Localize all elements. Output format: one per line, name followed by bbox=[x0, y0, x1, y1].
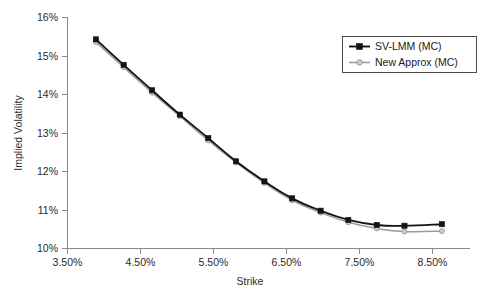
data-point-sv-lmm bbox=[233, 159, 238, 164]
y-tick-label: 10% bbox=[37, 242, 58, 254]
x-tick-label: 4.50% bbox=[126, 256, 156, 268]
y-tick-label: 14% bbox=[37, 88, 58, 100]
data-point-sv-lmm bbox=[290, 196, 295, 201]
legend-label-new-approx: New Approx (MC) bbox=[375, 56, 458, 68]
implied-volatility-line-chart: 10% 11% 12% 13% 14% 15% 16% 3.50% 4.50% … bbox=[0, 0, 487, 295]
y-tick-label: 12% bbox=[37, 165, 58, 177]
data-point-sv-lmm bbox=[318, 208, 323, 213]
data-point-new-approx bbox=[440, 229, 445, 234]
x-tick-label: 5.50% bbox=[199, 256, 229, 268]
y-tick-label: 15% bbox=[37, 50, 58, 62]
y-axis-title: Implied Volatility bbox=[12, 95, 24, 171]
x-axis-title: Strike bbox=[237, 275, 264, 287]
legend: SV-LMM (MC) New Approx (MC) bbox=[343, 37, 477, 73]
data-point-sv-lmm bbox=[346, 217, 351, 222]
legend-marker-sv-lmm bbox=[357, 44, 363, 50]
legend-marker-new-approx bbox=[357, 60, 362, 65]
y-tick-label: 11% bbox=[38, 204, 58, 216]
data-point-sv-lmm bbox=[206, 136, 211, 141]
chart-container: 10% 11% 12% 13% 14% 15% 16% 3.50% 4.50% … bbox=[0, 0, 487, 295]
x-tick-label: 3.50% bbox=[53, 256, 83, 268]
data-point-sv-lmm bbox=[121, 62, 126, 67]
data-point-sv-lmm bbox=[439, 222, 444, 227]
x-tick-label: 7.50% bbox=[345, 256, 375, 268]
data-point-sv-lmm bbox=[402, 223, 407, 228]
data-point-sv-lmm bbox=[374, 222, 379, 227]
y-tick-label: 16% bbox=[37, 11, 58, 23]
data-point-sv-lmm bbox=[150, 88, 155, 93]
x-tick-label: 6.50% bbox=[272, 256, 302, 268]
x-tick-label: 8.50% bbox=[418, 256, 448, 268]
data-point-new-approx bbox=[402, 229, 407, 234]
data-point-sv-lmm bbox=[93, 37, 98, 42]
data-point-sv-lmm bbox=[262, 179, 267, 184]
y-tick-label: 13% bbox=[37, 127, 58, 139]
legend-label-sv-lmm: SV-LMM (MC) bbox=[375, 40, 442, 52]
data-point-sv-lmm bbox=[177, 112, 182, 117]
